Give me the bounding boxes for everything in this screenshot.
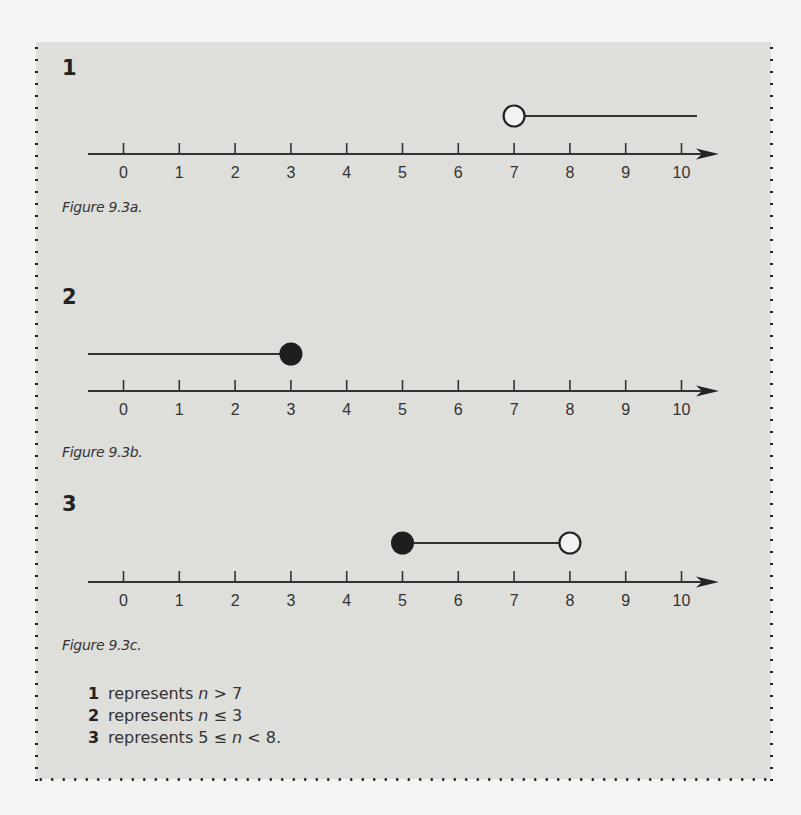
summary-list: 1represents n > 7 2represents n ≤ 3 3rep… <box>88 683 281 749</box>
figure-1-caption: Figure 9.3a. <box>62 199 142 215</box>
open-circle-icon <box>559 533 580 554</box>
tick-label: 4 <box>342 401 351 418</box>
tick-label: 9 <box>621 592 630 609</box>
summary-row-1: 1represents n > 7 <box>88 683 281 705</box>
tick-label: 8 <box>565 592 574 609</box>
tick-label: 5 <box>398 164 407 181</box>
tick-label: 0 <box>119 592 128 609</box>
tick-label: 7 <box>510 592 519 609</box>
tick-label: 0 <box>119 164 128 181</box>
open-circle-icon <box>504 106 525 127</box>
tick-label: 1 <box>175 592 184 609</box>
tick-label: 7 <box>510 401 519 418</box>
tick-label: 4 <box>342 592 351 609</box>
tick-label: 6 <box>454 401 463 418</box>
tick-label: 6 <box>454 592 463 609</box>
tick-label: 0 <box>119 401 128 418</box>
tick-label: 9 <box>621 401 630 418</box>
tick-label: 5 <box>398 592 407 609</box>
tick-label: 7 <box>510 164 519 181</box>
tick-label: 8 <box>565 401 574 418</box>
tick-label: 10 <box>673 401 691 418</box>
figure-3-number: 3 <box>62 492 77 516</box>
tick-label: 8 <box>565 164 574 181</box>
tick-label: 1 <box>175 164 184 181</box>
tick-label: 3 <box>286 401 295 418</box>
tick-label: 9 <box>621 164 630 181</box>
closed-circle-icon <box>279 343 302 366</box>
tick-label: 10 <box>673 164 691 181</box>
tick-label: 3 <box>286 592 295 609</box>
tick-label: 6 <box>454 164 463 181</box>
figure-2-caption: Figure 9.3b. <box>62 444 143 460</box>
tick-label: 1 <box>175 401 184 418</box>
tick-label: 2 <box>231 401 240 418</box>
figure-3-caption: Figure 9.3c. <box>62 637 141 653</box>
tick-label: 4 <box>342 164 351 181</box>
tick-label: 5 <box>398 401 407 418</box>
summary-row-2: 2represents n ≤ 3 <box>88 705 281 727</box>
tick-label: 2 <box>231 164 240 181</box>
summary-row-3: 3represents 5 ≤ n < 8. <box>88 727 281 749</box>
tick-label: 2 <box>231 592 240 609</box>
tick-label: 10 <box>673 592 691 609</box>
tick-label: 3 <box>286 164 295 181</box>
closed-circle-icon <box>391 532 414 555</box>
figure-2-number: 2 <box>62 285 77 309</box>
